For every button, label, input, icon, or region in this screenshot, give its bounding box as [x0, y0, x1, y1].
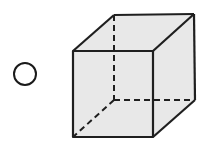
cube-silhouette — [73, 14, 195, 137]
edge-back-top — [114, 14, 194, 15]
edge-back-right — [194, 14, 195, 100]
cube-diagram — [0, 0, 203, 147]
